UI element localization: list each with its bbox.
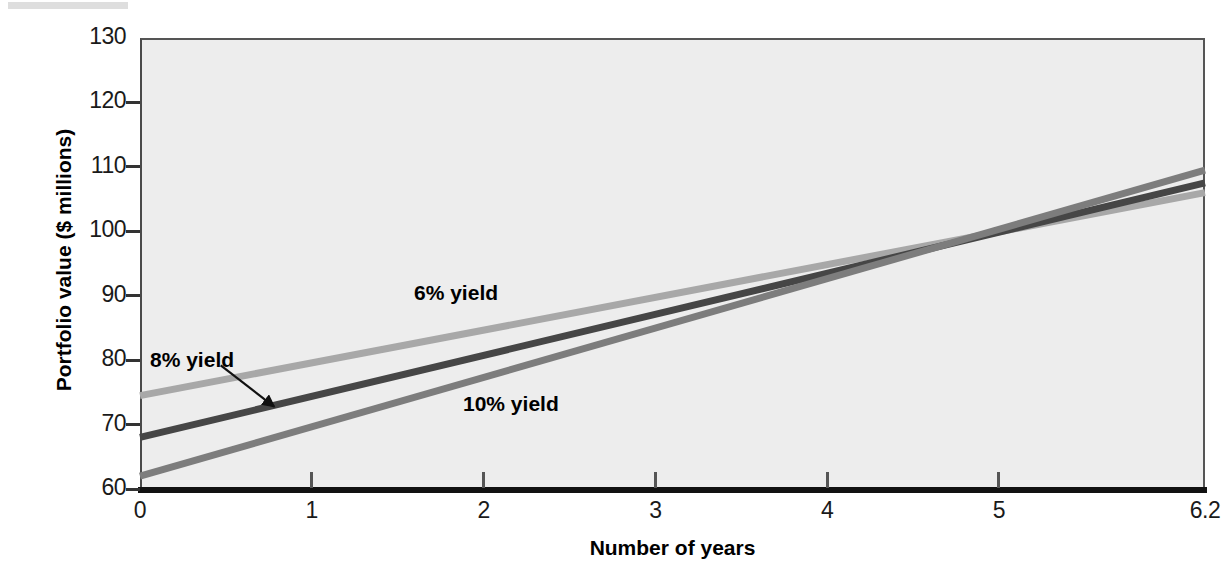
y-axis-tick — [126, 101, 140, 104]
x-axis-tick-label: 6.2 — [1165, 497, 1229, 524]
x-axis-tick — [654, 472, 657, 488]
y-axis-tick-label: 110 — [72, 152, 126, 179]
y-axis-tick-label: 120 — [72, 87, 126, 114]
y-axis-tick — [126, 294, 140, 297]
y-axis-tick-label: 130 — [72, 23, 126, 50]
scan-artifact — [8, 2, 128, 9]
x-axis-tick — [826, 472, 829, 488]
x-axis-tick — [310, 472, 313, 488]
plot-area — [140, 38, 1205, 489]
y-axis-tick-label: 70 — [72, 410, 126, 437]
x-axis-tick-label: 5 — [959, 497, 1039, 524]
x-axis-tick-label: 0 — [100, 497, 180, 524]
y-axis-tick — [126, 488, 140, 491]
series-label-6-percent: 6% yield — [414, 281, 498, 305]
x-axis-title: Number of years — [140, 536, 1205, 560]
x-axis-tick-label: 3 — [615, 497, 695, 524]
y-axis-tick — [126, 165, 140, 168]
y-axis-tick — [126, 423, 140, 426]
x-axis-tick — [482, 472, 485, 488]
x-axis-tick-label: 4 — [787, 497, 867, 524]
x-axis-line — [138, 487, 1207, 493]
x-axis-tick-label: 2 — [444, 497, 524, 524]
chart-figure: 60708090100110120130 0123456.2 6% yield … — [0, 0, 1229, 588]
x-axis-tick — [997, 472, 1000, 488]
series-label-10-percent: 10% yield — [463, 392, 559, 416]
y-axis-tick — [126, 230, 140, 233]
series-label-8-percent: 8% yield — [150, 348, 234, 372]
x-axis-tick-label: 1 — [272, 497, 352, 524]
y-axis-tick-label: 100 — [72, 216, 126, 243]
y-axis-title: Portfolio value ($ millions) — [52, 40, 76, 480]
y-axis-tick-label: 90 — [72, 281, 126, 308]
y-axis-tick-label: 80 — [72, 345, 126, 372]
y-axis-tick — [126, 359, 140, 362]
